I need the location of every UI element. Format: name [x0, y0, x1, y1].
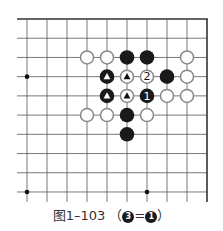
white-stone — [181, 70, 194, 83]
black-stone-3-icon: 3 — [122, 211, 134, 223]
go-board: 21 — [0, 0, 223, 205]
caption-open-paren: （ — [109, 208, 122, 223]
move-number: 1 — [144, 90, 151, 103]
figure-caption: 图1–103 （3=1） — [0, 205, 223, 224]
white-stone — [81, 51, 94, 64]
white-stone-marked — [121, 89, 134, 102]
star-point-icon — [25, 190, 30, 195]
white-stone — [181, 89, 194, 102]
white-stone — [101, 51, 114, 64]
white-stone — [161, 89, 174, 102]
caption-close-paren: ） — [157, 208, 170, 223]
black-stone — [120, 127, 135, 142]
caption-figure-number: 图1–103 — [53, 208, 106, 223]
black-stone — [120, 50, 135, 65]
black-stone-marked — [100, 69, 115, 84]
white-stone — [81, 109, 94, 122]
white-stone — [101, 109, 114, 122]
star-point-icon — [25, 74, 30, 79]
black-stone — [160, 69, 175, 84]
black-stone — [120, 108, 135, 123]
black-stone-marked — [100, 89, 115, 104]
star-point-icon — [145, 190, 150, 195]
white-stone-2: 2 — [141, 70, 154, 83]
caption-equals: = — [134, 208, 145, 223]
black-stone — [140, 50, 155, 65]
white-stone — [141, 109, 154, 122]
black-stone-1: 1 — [140, 89, 155, 104]
white-stone-marked — [121, 70, 134, 83]
move-number: 2 — [144, 70, 151, 83]
black-stone-1-icon: 1 — [145, 211, 157, 223]
white-stone — [181, 51, 194, 64]
